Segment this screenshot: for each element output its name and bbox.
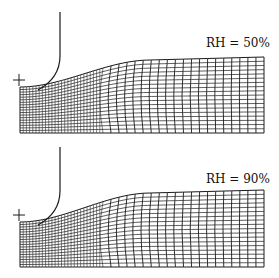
panel-rh-90 xyxy=(13,147,264,267)
panel-rh-50 xyxy=(13,12,264,133)
mesh-row-line xyxy=(20,229,264,245)
mesh-row-line xyxy=(20,211,264,234)
mesh-row-line xyxy=(20,99,264,112)
panel-label-rh-50: RH = 50% xyxy=(206,36,270,50)
mesh-row-line xyxy=(20,263,264,265)
probe-tip-curve xyxy=(38,147,60,225)
panel-label-rh-90: RH = 90% xyxy=(206,172,270,186)
mesh-row-line xyxy=(20,233,264,247)
probe-tip-curve xyxy=(38,12,60,90)
mesh-row-line xyxy=(20,103,264,115)
mesh-row-line xyxy=(20,220,264,240)
mesh-row-line xyxy=(20,129,264,131)
